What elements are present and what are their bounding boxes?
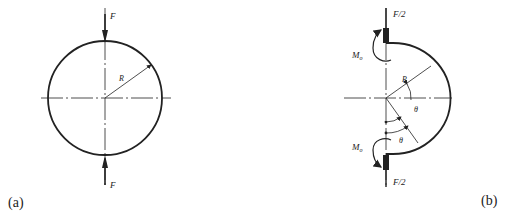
radius-line: [105, 65, 151, 98]
caption-b: (b): [481, 193, 498, 209]
radius-line: [386, 66, 431, 98]
theta-label-lower: θ: [399, 136, 403, 145]
bottom-force-arrow-icon: [383, 155, 389, 187]
caption-a: (a): [8, 195, 24, 211]
bottom-force-arrow-icon: [102, 155, 108, 185]
theta-label-upper: θ: [414, 105, 418, 114]
half-ring: [386, 43, 451, 154]
top-force-arrow-icon: [383, 8, 389, 43]
top-force-arrow-icon: [102, 14, 108, 43]
figure-canvas: F F R (a): [0, 0, 513, 224]
radius-label: R: [401, 75, 407, 84]
panel-a: F F R (a): [8, 8, 171, 211]
panel-b: F/2 F/2 Mo Mo R θ θ (b): [344, 8, 498, 209]
angle-arc-lower-2: [386, 126, 408, 133]
moment-bottom-label: Mo: [351, 142, 363, 153]
force-top-label: F/2: [392, 9, 406, 19]
angle-arc-lower-1: [386, 117, 401, 122]
moment-top-label: Mo: [351, 50, 363, 61]
force-bottom-label: F/2: [392, 177, 406, 187]
radius-label: R: [118, 74, 124, 83]
force-bottom-label: F: [109, 180, 116, 190]
force-top-label: F: [109, 11, 116, 21]
